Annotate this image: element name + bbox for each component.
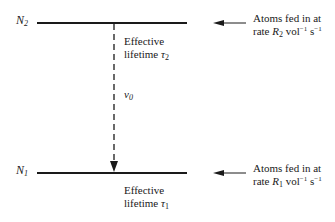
upper-level-label: N2 xyxy=(16,14,28,27)
lower-feed-label: Atoms fed in at rate R1 vol−1 s−1 xyxy=(253,162,322,188)
upper-feed-label: Atoms fed in at rate R2 vol−1 s−1 xyxy=(253,12,322,38)
lower-lifetime-label: Effective lifetime τ1 xyxy=(124,184,169,210)
upper-feed-arrowhead-icon xyxy=(213,20,224,26)
transition-arrowhead-icon xyxy=(110,161,118,172)
lower-level-label: N1 xyxy=(16,164,28,177)
lower-feed-arrowhead-icon xyxy=(213,170,224,176)
upper-lifetime-label: Effective lifetime τ2 xyxy=(124,35,169,61)
transition-frequency-label: v0 xyxy=(124,88,133,101)
